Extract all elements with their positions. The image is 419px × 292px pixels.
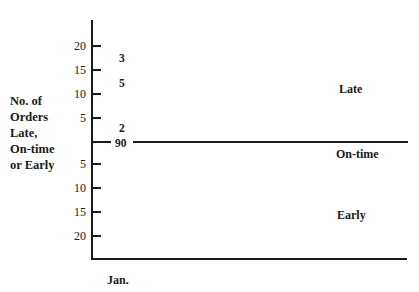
tick-label-lower-15: 15: [64, 206, 86, 218]
y-axis-label: No. of Orders Late, On-time or Early: [10, 93, 55, 173]
x-axis-line: [91, 258, 407, 260]
tick-lower-15: [93, 211, 101, 213]
late-value-3: 3: [119, 52, 125, 64]
tick-upper-15: [93, 69, 101, 71]
tick-label-upper-5: 5: [64, 112, 86, 124]
tick-label-lower-5: 5: [64, 158, 86, 170]
tick-label-upper-10: 10: [64, 88, 86, 100]
ontime-line-left: [93, 141, 111, 143]
x-category-label: Jan.: [107, 273, 129, 288]
tick-upper-10: [93, 93, 101, 95]
region-label-ontime: On-time: [336, 148, 379, 160]
tick-lower-20: [93, 235, 101, 237]
region-label-early: Early: [337, 209, 366, 221]
tick-label-lower-20: 20: [64, 230, 86, 242]
y-axis-label-line: On-time: [10, 141, 55, 157]
y-axis-label-line: No. of: [10, 93, 55, 109]
y-axis-label-line: Orders: [10, 109, 55, 125]
tick-label-lower-10: 10: [64, 182, 86, 194]
tick-upper-5: [93, 117, 101, 119]
tick-lower-10: [93, 187, 101, 189]
y-axis-label-line: Late,: [10, 125, 55, 141]
tick-label-upper-15: 15: [64, 64, 86, 76]
region-label-late: Late: [339, 83, 362, 95]
ontime-value: 90: [115, 137, 127, 149]
y-axis-label-line: or Early: [10, 157, 55, 173]
late-value-2: 2: [119, 122, 125, 134]
y-axis-line: [91, 20, 93, 260]
ontime-line: [133, 141, 408, 143]
late-value-5: 5: [119, 77, 125, 89]
tick-upper-20: [93, 45, 101, 47]
tick-lower-5: [93, 163, 101, 165]
tick-label-upper-20: 20: [64, 40, 86, 52]
